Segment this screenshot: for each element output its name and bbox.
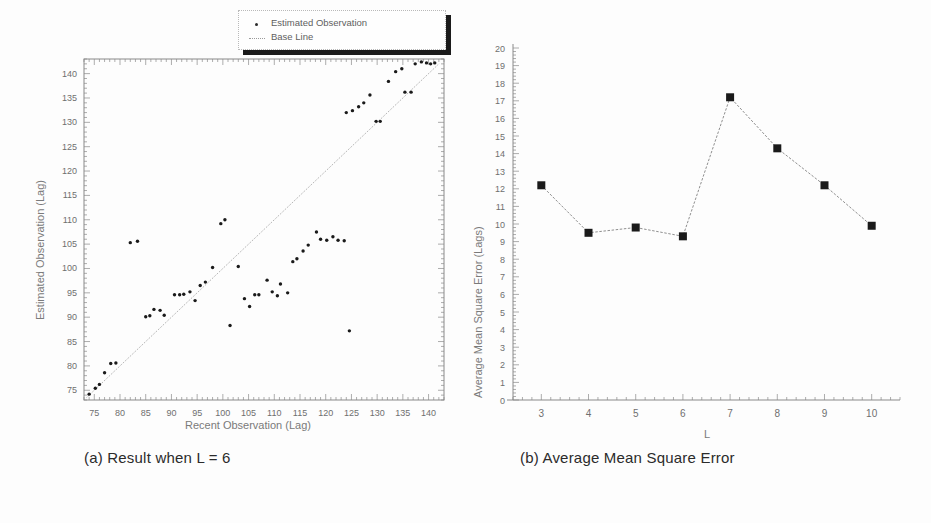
scatter-point <box>291 260 294 263</box>
y-tick-label-b: 12 <box>495 184 505 194</box>
y-tick-label-a: 90 <box>67 312 77 322</box>
x-tick-label-a: 125 <box>344 408 359 418</box>
scatter-point <box>301 249 304 252</box>
scatter-point <box>368 93 371 96</box>
mse-data-marker <box>726 93 734 101</box>
y-tick-label-b: 0 <box>500 396 505 406</box>
scatter-point <box>357 105 360 108</box>
y-tick-label-b: 7 <box>500 272 505 282</box>
scatter-point <box>343 239 346 242</box>
y-tick-label-a: 105 <box>62 239 77 249</box>
scatter-point <box>148 314 151 317</box>
legend-item-estimated-observation: Estimated Observation <box>271 17 367 28</box>
mse-data-marker <box>537 181 545 189</box>
scatter-point <box>253 293 256 296</box>
y-tick-label-b: 1 <box>500 378 505 388</box>
scatter-point <box>163 314 166 317</box>
scatter-point <box>279 282 282 285</box>
scatter-point <box>409 90 412 93</box>
scatter-point <box>374 120 377 123</box>
scatter-point <box>109 362 112 365</box>
x-tick-label-a: 85 <box>141 408 151 418</box>
y-tick-label-a: 130 <box>62 117 77 127</box>
scatter-point <box>223 218 226 221</box>
panel-a-scatter-chart: 7580859095100105110115120125130135140758… <box>0 0 470 523</box>
scatter-point <box>429 62 432 65</box>
scatter-point <box>362 101 365 104</box>
mse-data-marker <box>585 229 593 237</box>
y-tick-label-a: 75 <box>67 385 77 395</box>
y-tick-label-b: 5 <box>500 308 505 318</box>
scatter-point <box>237 265 240 268</box>
scatter-point <box>136 239 139 242</box>
scatter-point <box>204 280 207 283</box>
y-tick-label-b: 4 <box>500 325 505 335</box>
legend-dot-icon <box>255 23 258 26</box>
x-tick-label-a: 135 <box>395 408 410 418</box>
legend-item-base-line: Base Line <box>271 31 313 42</box>
y-tick-label-b: 16 <box>495 114 505 124</box>
y-tick-label-b: 18 <box>495 79 505 89</box>
scatter-point <box>276 294 279 297</box>
scatter-point <box>188 290 191 293</box>
y-tick-label-b: 11 <box>496 202 505 212</box>
scatter-point <box>152 308 155 311</box>
x-tick-label-b: 7 <box>727 408 733 419</box>
scatter-plot-svg: 7580859095100105110115120125130135140758… <box>0 0 470 440</box>
y-tick-label-a: 135 <box>62 93 77 103</box>
x-axis-title-b: L <box>704 428 710 440</box>
y-axis-title-b: Average Mean Square Error (Lags) <box>472 226 484 398</box>
x-tick-label-a: 95 <box>192 408 202 418</box>
scatter-point <box>243 297 246 300</box>
legend-panel-a[interactable]: Estimated Observation Base Line <box>238 10 446 50</box>
caption-panel-b: (b) Average Mean Square Error <box>520 449 735 466</box>
y-tick-label-a: 115 <box>63 190 77 200</box>
scatter-point <box>331 235 334 238</box>
scatter-point <box>228 324 231 327</box>
scatter-point <box>98 383 101 386</box>
scatter-point <box>257 293 260 296</box>
scatter-point <box>286 291 289 294</box>
figure-container: 7580859095100105110115120125130135140758… <box>0 0 931 523</box>
y-tick-label-a: 120 <box>62 166 77 176</box>
y-tick-label-b: 9 <box>500 237 505 247</box>
scatter-point <box>325 239 328 242</box>
x-tick-label-a: 105 <box>241 408 256 418</box>
scatter-point <box>144 315 147 318</box>
scatter-point <box>129 241 132 244</box>
x-tick-label-a: 110 <box>267 408 281 418</box>
scatter-point <box>173 293 176 296</box>
y-tick-label-a: 85 <box>67 337 77 347</box>
scatter-point <box>265 278 268 281</box>
x-tick-label-a: 120 <box>318 408 333 418</box>
y-tick-label-a: 95 <box>67 288 77 298</box>
x-tick-label-a: 75 <box>89 408 99 418</box>
y-tick-label-b: 6 <box>500 290 505 300</box>
y-tick-label-b: 15 <box>495 132 505 142</box>
x-tick-label-a: 140 <box>421 408 436 418</box>
x-tick-label-b: 4 <box>586 408 592 419</box>
mse-data-marker <box>820 181 828 189</box>
line-plot-svg: 0123456789101112131415161718192034567891… <box>460 0 931 440</box>
scatter-point <box>379 120 382 123</box>
scatter-point <box>319 238 322 241</box>
x-tick-label-b: 8 <box>775 408 781 419</box>
scatter-point <box>433 61 436 64</box>
scatter-point <box>271 290 274 293</box>
mse-data-marker <box>773 144 781 152</box>
x-tick-label-b: 6 <box>680 408 686 419</box>
scatter-point <box>425 61 428 64</box>
scatter-points-group <box>87 60 436 396</box>
base-line-series <box>87 64 439 398</box>
x-tick-label-a: 80 <box>115 408 125 418</box>
scatter-point <box>394 70 397 73</box>
legend-line-icon <box>249 38 265 39</box>
y-tick-label-b: 2 <box>500 360 505 370</box>
scatter-point <box>94 387 97 390</box>
x-tick-label-b: 9 <box>822 408 828 419</box>
scatter-point <box>420 60 423 63</box>
y-tick-label-b: 3 <box>500 343 505 353</box>
scatter-point <box>211 266 214 269</box>
y-axis-title-a: Estimated Observation (Lag) <box>34 180 46 320</box>
x-tick-label-a: 115 <box>293 408 307 418</box>
